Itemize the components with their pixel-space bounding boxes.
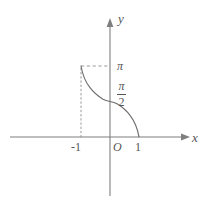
y-tick-label-pi-over-2: π 2 (117, 80, 126, 108)
arccos-plot-figure: y x π π 2 -1 O 1 (0, 0, 211, 206)
y-axis-arrowhead (107, 18, 114, 27)
y-axis-label: y (118, 12, 124, 25)
pi-over-2-numerator: π (117, 80, 125, 93)
x-axis (10, 134, 190, 141)
origin-label: O (113, 141, 122, 153)
pi-over-2-denominator: 2 (118, 96, 126, 109)
x-tick-label-minus-1: -1 (71, 141, 81, 153)
x-axis-arrowhead (181, 134, 190, 141)
y-axis (107, 18, 114, 196)
y-tick-label-pi: π (117, 60, 123, 72)
guide-lines (81, 66, 110, 137)
plot-canvas (0, 0, 211, 206)
x-tick-label-1: 1 (135, 141, 141, 153)
x-axis-label: x (192, 131, 198, 144)
